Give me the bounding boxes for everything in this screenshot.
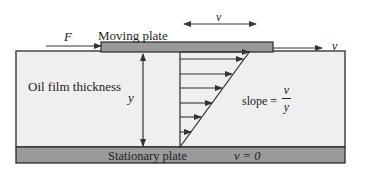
thickness-label: y (128, 91, 134, 104)
force-label: F (64, 30, 72, 43)
slope-denominator: y (284, 101, 289, 113)
stationary-plate-label: Stationary plate (108, 150, 187, 163)
moving-plate-label: Moving plate (98, 29, 168, 42)
slope-numerator: v (284, 84, 289, 96)
slope-label: slope = (242, 95, 277, 107)
fraction-bar (282, 98, 291, 99)
oil-film-label: Oil film thickness (28, 80, 121, 93)
velocity-top-label: v (216, 11, 221, 23)
slope-fraction: v y (282, 84, 291, 113)
stationary-velocity-label: v = 0 (234, 150, 260, 163)
moving-plate (101, 42, 273, 52)
velocity-right-label: v (332, 40, 337, 52)
